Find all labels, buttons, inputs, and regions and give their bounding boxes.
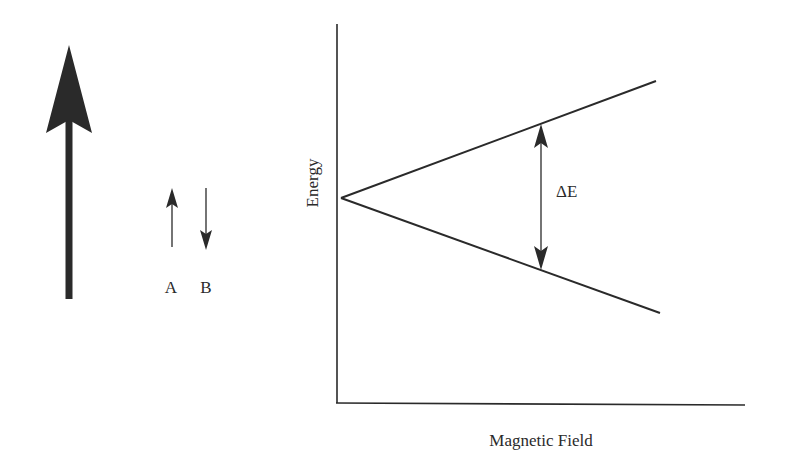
delta-e-double-arrow-icon [534, 124, 548, 270]
zeeman-diagram: A B ΔE Energy Magnetic Field [0, 0, 789, 455]
x-axis-label: Magnetic Field [489, 431, 593, 450]
large-up-arrow-icon [46, 45, 92, 299]
small-up-arrow-icon [166, 188, 178, 247]
spin-label-b: B [200, 278, 211, 297]
y-axis-label: Energy [303, 158, 322, 207]
delta-e-label: ΔE [556, 182, 577, 201]
lower-energy-level [341, 198, 660, 313]
upper-energy-level [341, 81, 656, 198]
x-axis [336, 403, 745, 405]
spin-label-a: A [165, 278, 178, 297]
small-down-arrow-icon [200, 188, 212, 250]
